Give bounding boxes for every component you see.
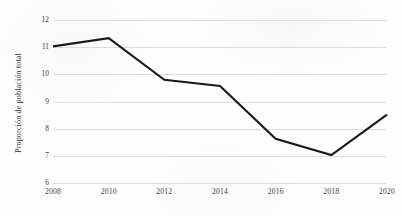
x-axis-tick-label: 2020 (364, 187, 403, 197)
x-axis-tick-label: 2012 (141, 187, 187, 197)
y-axis-tick-labels: 1211109876 (27, 20, 49, 183)
y-axis-tick-label: 6 (27, 179, 49, 187)
x-axis-tick-label: 2018 (308, 187, 354, 197)
x-axis-tick-label: 2010 (86, 187, 132, 197)
series-line-proporcion (53, 20, 387, 183)
plot-area (53, 20, 387, 183)
line-chart: Proporción de población total 1211109876… (0, 0, 403, 216)
y-axis-tick-label: 12 (27, 16, 49, 24)
y-axis-tick-label: 7 (27, 152, 49, 160)
x-axis-tick-label: 2016 (253, 187, 299, 197)
y-axis-tick-label: 9 (27, 98, 49, 106)
y-axis-tick-label: 11 (27, 43, 49, 51)
y-axis-tick-label: 8 (27, 125, 49, 133)
x-axis-tick-label: 2014 (197, 187, 243, 197)
y-axis-title: Proporción de población total (12, 15, 26, 191)
gridline (53, 183, 387, 184)
x-axis-tick-labels: 2008201020122014201620182020 (53, 187, 387, 201)
y-axis-tick-label: 10 (27, 70, 49, 78)
x-axis-tick-label: 2008 (30, 187, 76, 197)
